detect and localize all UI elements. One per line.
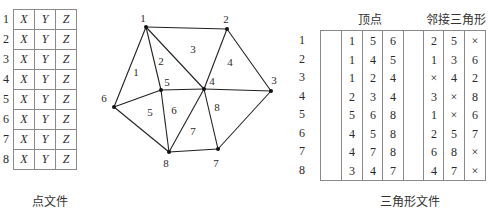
mesh-node	[216, 147, 220, 151]
triangle-label: 7	[190, 125, 196, 137]
node-label: 5	[164, 76, 170, 88]
neighbor-cell: ×	[465, 145, 485, 160]
vertex-cell: 8	[383, 108, 403, 123]
neighbor-cell: 5	[444, 34, 464, 49]
row-index: 3	[296, 70, 308, 85]
neighbor-cell: ×	[444, 90, 464, 105]
header-neighbors: 邻接三角形	[426, 10, 486, 27]
mesh-node	[202, 87, 206, 91]
vertex-cell: 4	[363, 164, 383, 179]
triangle-file-caption: 三角形文件	[380, 192, 440, 209]
vertex-cell: 1	[342, 34, 362, 49]
node-label: 3	[271, 74, 277, 86]
vertex-cell: 5	[363, 127, 383, 142]
mesh-node	[225, 27, 229, 31]
neighbor-cell: ×	[424, 71, 444, 86]
neighbor-cell: 7	[465, 127, 485, 142]
mesh-node	[159, 88, 163, 92]
neighbor-cell: ×	[465, 34, 485, 49]
vertex-cell: 1	[342, 71, 362, 86]
neighbor-cell: 2	[424, 127, 444, 142]
neighbor-cell: 5	[444, 127, 464, 142]
header-vertices: 顶点	[358, 10, 382, 27]
vertex-cell: 1	[342, 53, 362, 68]
neighbor-cell: 8	[465, 90, 485, 105]
vertex-cell: 8	[383, 127, 403, 142]
triangle-label: 4	[227, 56, 233, 68]
vertex-cell: 6	[383, 34, 403, 49]
neighbor-cell: 3	[444, 53, 464, 68]
vertex-cell: 4	[342, 127, 362, 142]
neighbor-cell: 1	[424, 108, 444, 123]
neighbor-cell: 8	[444, 145, 464, 160]
vertex-cell: 5	[363, 34, 383, 49]
mesh-node	[144, 25, 148, 29]
neighbor-cell: 4	[444, 71, 464, 86]
row-index: 8	[296, 163, 308, 178]
neighbor-cell: 1	[424, 53, 444, 68]
node-label: 4	[209, 75, 215, 87]
row-index: 4	[296, 89, 308, 104]
vertex-cell: 4	[383, 71, 403, 86]
neighbor-cell: 2	[424, 34, 444, 49]
triangle-label: 6	[171, 104, 177, 116]
node-label: 1	[140, 12, 146, 24]
vertex-cell: 3	[342, 164, 362, 179]
neighbor-cell: ×	[465, 164, 485, 179]
vertex-cell: 7	[363, 145, 383, 160]
vertex-cell: 4	[383, 90, 403, 105]
vertex-cell: 8	[383, 145, 403, 160]
vertex-cell: 2	[363, 71, 383, 86]
vertex-cell: 3	[363, 90, 383, 105]
mesh-node	[269, 89, 273, 93]
neighbor-cell: 3	[424, 90, 444, 105]
row-index: 7	[296, 144, 308, 159]
vertex-cell: 5	[383, 53, 403, 68]
neighbor-cell: 6	[465, 108, 485, 123]
node-label: 8	[163, 157, 169, 169]
triangle-label: 3	[190, 43, 196, 55]
triangle-file-table: 15625×145136124×422343×85681×64582574786…	[320, 30, 486, 181]
vertex-cell: 7	[383, 164, 403, 179]
row-index: 6	[296, 126, 308, 141]
column-divider	[403, 31, 404, 180]
node-label: 7	[213, 157, 219, 169]
vertex-cell: 5	[342, 108, 362, 123]
vertex-cell: 6	[363, 108, 383, 123]
mesh-node	[112, 105, 116, 109]
triangle-label: 2	[158, 55, 164, 67]
row-index: 1	[296, 33, 308, 48]
triangle-label: 1	[133, 66, 139, 78]
neighbor-cell: 4	[424, 164, 444, 179]
triangle-label: 8	[214, 101, 220, 113]
vertex-cell: 4	[342, 145, 362, 160]
vertex-cell: 4	[363, 53, 383, 68]
row-index: 2	[296, 52, 308, 67]
vertex-cell: 2	[342, 90, 362, 105]
node-label: 2	[223, 13, 229, 25]
triangle-label: 5	[147, 106, 153, 118]
neighbor-cell: 7	[444, 164, 464, 179]
neighbor-cell: 2	[465, 71, 485, 86]
neighbor-cell: 6	[424, 145, 444, 160]
mesh-node	[167, 150, 171, 154]
neighbor-cell: ×	[444, 108, 464, 123]
row-index: 5	[296, 107, 308, 122]
neighbor-cell: 6	[465, 53, 485, 68]
node-label: 6	[101, 92, 107, 104]
